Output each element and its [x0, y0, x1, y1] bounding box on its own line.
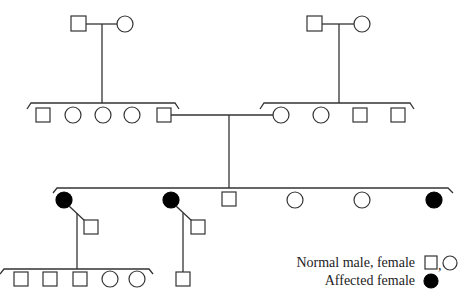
legend-normal-row: Normal male, female: [250, 254, 420, 272]
legend-affected-female-icon: [424, 274, 438, 288]
gen1-left-couple: [71, 16, 133, 103]
legend-female-icon: [443, 256, 457, 270]
marriage-line: [176, 206, 192, 221]
legend-separator: ,: [438, 258, 442, 274]
male-symbol: [307, 16, 322, 31]
female-symbol: [124, 107, 140, 123]
female-symbol: [273, 107, 289, 123]
gen3-mid-marriage: [176, 206, 205, 272]
affected-female-symbol: [426, 192, 442, 208]
gen2-left-sibship: [27, 103, 179, 123]
legend-affected-row: Affected female: [250, 272, 420, 290]
male-symbol: [71, 16, 86, 31]
male-symbol: [84, 220, 98, 234]
female-symbol: [129, 271, 145, 287]
gen3-sibship: [53, 188, 453, 208]
male-symbol: [14, 272, 28, 286]
male-symbol: [191, 220, 205, 234]
gen1-right-couple: [307, 16, 370, 103]
female-symbol: [313, 107, 329, 123]
sibship-line: [53, 188, 453, 193]
male-symbol: [43, 272, 57, 286]
male-symbol: [391, 108, 405, 122]
legend-affected-label: Affected female: [325, 273, 415, 289]
gen3-left-marriage: [69, 206, 98, 269]
gen2-right-sibship: [260, 103, 414, 123]
female-symbol: [102, 271, 118, 287]
male-symbol: [36, 108, 50, 122]
male-symbol: [353, 108, 367, 122]
gen4-left-sibship: [0, 269, 153, 287]
legend-normal-label: Normal male, female: [296, 255, 415, 271]
female-symbol: [117, 16, 133, 32]
female-symbol: [65, 107, 81, 123]
male-symbol: [222, 192, 236, 206]
male-symbol: [157, 108, 171, 122]
male-symbol: [73, 272, 87, 286]
female-symbol: [354, 16, 370, 32]
affected-female-symbol: [56, 192, 72, 208]
female-symbol: [287, 192, 303, 208]
legend-male-icon: [425, 256, 437, 269]
gen4-right-male-symbol: [176, 272, 190, 286]
affected-female-symbol: [163, 192, 179, 208]
female-symbol: [354, 192, 370, 208]
legend: Normal male, female Affected female: [250, 254, 420, 290]
female-symbol: [95, 107, 111, 123]
